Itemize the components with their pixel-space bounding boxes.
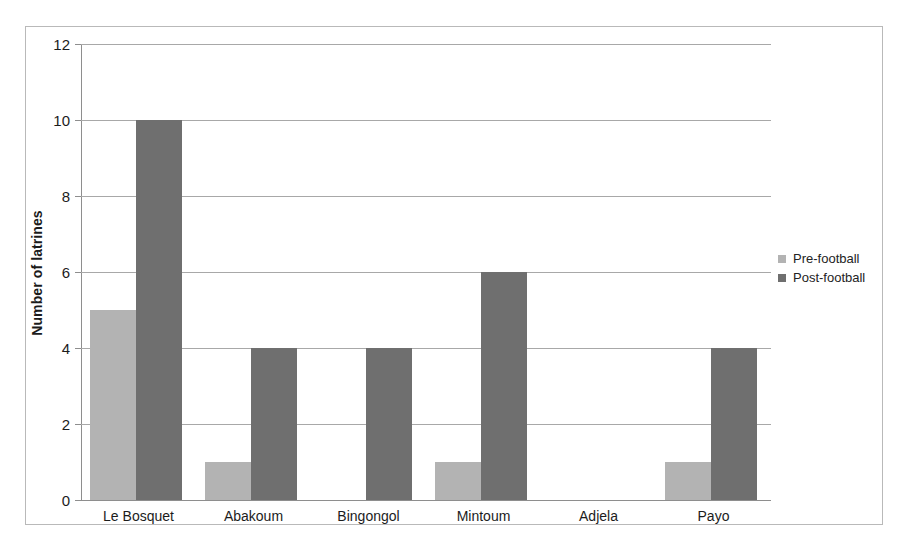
bar[interactable]: [665, 462, 711, 500]
x-axis-tick-label: Bingongol: [311, 508, 426, 524]
x-axis-tick-label: Adjela: [541, 508, 656, 524]
x-axis-tick-label: Le Bosquet: [81, 508, 196, 524]
legend-label: Post-football: [793, 271, 865, 284]
bar[interactable]: [251, 348, 297, 500]
bar-group: [196, 44, 311, 500]
x-axis-tick-label: Payo: [656, 508, 771, 524]
bar[interactable]: [205, 462, 251, 500]
legend-swatch-icon: [778, 274, 786, 282]
bar[interactable]: [90, 310, 136, 500]
y-axis-tick-label: 6: [62, 265, 70, 280]
legend-swatch-icon: [778, 255, 786, 263]
bar[interactable]: [366, 348, 412, 500]
bar-group: [81, 44, 196, 500]
bar[interactable]: [481, 272, 527, 500]
y-axis-title: Number of latrines: [29, 210, 45, 336]
legend-item[interactable]: Pre-football: [778, 249, 865, 268]
legend-item[interactable]: Post-football: [778, 268, 865, 287]
bar-group: [426, 44, 541, 500]
bar-group: [656, 44, 771, 500]
chart-legend: Pre-footballPost-football: [778, 249, 865, 287]
y-axis-tick-label: 12: [53, 37, 70, 52]
y-axis-tick-label: 4: [62, 341, 70, 356]
y-axis-tick: [75, 500, 81, 501]
x-axis-tick-label: Abakoum: [196, 508, 311, 524]
plot-area: Number of latrines 024681012 Le BosquetA…: [81, 44, 771, 501]
bar[interactable]: [435, 462, 481, 500]
y-axis-tick-label: 2: [62, 417, 70, 432]
x-axis-tick-label: Mintoum: [426, 508, 541, 524]
y-axis-tick-label: 8: [62, 189, 70, 204]
x-axis-line: [81, 500, 771, 501]
y-axis-tick-label: 10: [53, 113, 70, 128]
figure-frame: Number of latrines 024681012 Le BosquetA…: [25, 26, 883, 525]
bar-group: [311, 44, 426, 500]
bar[interactable]: [711, 348, 757, 500]
bar-group: [541, 44, 656, 500]
bar[interactable]: [136, 120, 182, 500]
legend-label: Pre-football: [793, 252, 859, 265]
y-axis-tick-label: 0: [62, 493, 70, 508]
